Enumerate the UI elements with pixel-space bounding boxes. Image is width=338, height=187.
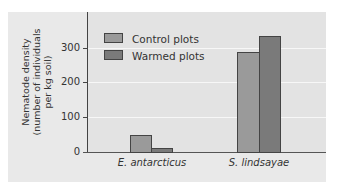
legend-label-control: Control plots bbox=[132, 33, 199, 45]
y-axis-label: Nematode density (number of individuals … bbox=[20, 17, 53, 147]
y-axis-label-line: per kg soil) bbox=[42, 17, 53, 147]
y-tick-label: 100 bbox=[50, 112, 80, 122]
bar-control-e-antarcticus bbox=[130, 135, 152, 153]
bar-warmed-e-antarcticus bbox=[151, 148, 173, 153]
y-tick-label: 0 bbox=[50, 147, 80, 157]
legend-swatch-warmed bbox=[104, 50, 123, 60]
x-category-label: E. antarcticus bbox=[107, 157, 197, 168]
x-category-label: S. lindsayae bbox=[214, 157, 304, 168]
gridline-100 bbox=[88, 117, 326, 118]
gridline-200 bbox=[88, 82, 326, 83]
y-tick-100 bbox=[83, 117, 88, 118]
y-tick-label: 300 bbox=[50, 43, 80, 53]
y-tick-label: 200 bbox=[50, 77, 80, 87]
x-axis bbox=[83, 152, 326, 153]
y-tick-200 bbox=[83, 82, 88, 83]
y-tick-300 bbox=[83, 48, 88, 49]
bar-warmed-s-lindsayae bbox=[259, 36, 281, 153]
y-axis-label-line: (number of individuals bbox=[31, 17, 42, 147]
gridline-300 bbox=[88, 48, 326, 49]
legend-swatch-control bbox=[104, 33, 123, 43]
y-axis-label-line: Nematode density bbox=[20, 17, 31, 147]
bar-control-s-lindsayae bbox=[237, 52, 260, 153]
legend-label-warmed: Warmed plots bbox=[132, 50, 205, 62]
